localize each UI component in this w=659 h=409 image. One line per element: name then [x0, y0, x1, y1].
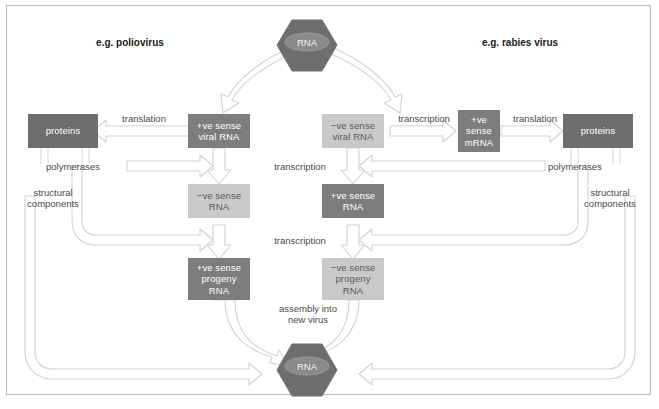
edge-label-structural-left-line1: structural — [8, 187, 98, 198]
node-left-proteins: proteins — [28, 114, 98, 148]
node-left-viral-rna: +ve sense viral RNA — [188, 114, 250, 148]
node-right-viral-rna-line1: −ve sense — [331, 120, 375, 131]
node-left-progeny-line1: +ve sense — [197, 262, 241, 273]
edge-label-transcription-right-top: transcription — [386, 113, 462, 124]
node-left-proteins-label: proteins — [46, 125, 81, 136]
edge-label-polymerases-right: polymerases — [548, 161, 638, 172]
node-right-viral-rna: −ve sense viral RNA — [322, 114, 384, 148]
node-right-mrna: +ve sense mRNA — [458, 110, 500, 152]
edge-label-structural-left-line2: components — [8, 198, 98, 209]
node-left-template-rna: −ve sense RNA — [188, 184, 250, 218]
edge-label-translation-right: translation — [500, 113, 570, 124]
node-right-mrna-line3: mRNA — [465, 137, 493, 148]
node-right-progeny-line3: RNA — [343, 285, 363, 296]
node-right-proteins-label: proteins — [581, 125, 616, 136]
node-right-progeny-line1: −ve sense — [331, 262, 375, 273]
node-right-progeny-line2: progeny — [335, 273, 370, 284]
heading-left: e.g. poliovirus — [30, 37, 230, 49]
node-right-mrna-line1: +ve — [471, 114, 487, 125]
node-left-viral-rna-line2: viral RNA — [198, 131, 239, 142]
edge-label-transcription-mid-1: transcription — [255, 161, 345, 172]
node-left-progeny-rna: +ve sense progeny RNA — [188, 258, 250, 300]
edge-label-structural-right-line1: structural — [565, 187, 655, 198]
node-right-mrna-line2: sense — [466, 125, 492, 136]
figure-canvas: .out{fill:#ffffff;stroke:#d2d2d2;stroke-… — [0, 0, 659, 409]
node-left-template-rna-line1: −ve sense — [197, 190, 241, 201]
node-right-viral-rna-line2: viral RNA — [332, 131, 373, 142]
edge-label-polymerases-left: polymerases — [46, 161, 126, 172]
node-right-proteins: proteins — [563, 114, 633, 148]
node-left-progeny-line2: progeny — [201, 273, 236, 284]
node-right-template-rna-line1: +ve sense — [331, 190, 375, 201]
edge-label-translation-left: translation — [104, 113, 184, 124]
edge-label-transcription-mid-2: transcription — [255, 235, 345, 246]
edge-label-assembly-line2: new virus — [243, 314, 373, 325]
heading-right: e.g. rabies virus — [420, 37, 620, 49]
node-left-progeny-line3: RNA — [209, 285, 229, 296]
node-right-template-rna-line2: RNA — [343, 201, 363, 212]
node-right-template-rna: +ve sense RNA — [322, 184, 384, 218]
virion-bottom-label: RNA — [277, 361, 337, 372]
virion-top-label: RNA — [277, 37, 337, 48]
edge-label-assembly-line1: assembly into — [243, 303, 373, 314]
node-left-template-rna-line2: RNA — [209, 201, 229, 212]
node-left-viral-rna-line1: +ve sense — [197, 120, 241, 131]
node-right-progeny-rna: −ve sense progeny RNA — [322, 258, 384, 300]
edge-label-structural-right-line2: components — [565, 198, 655, 209]
